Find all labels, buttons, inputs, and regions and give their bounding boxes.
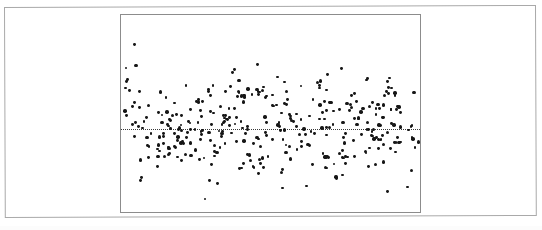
data-point xyxy=(168,152,171,155)
data-point xyxy=(133,101,136,104)
data-point xyxy=(378,107,381,110)
data-point xyxy=(145,136,148,139)
data-point xyxy=(387,92,390,95)
data-point xyxy=(147,104,150,107)
data-point xyxy=(386,190,389,193)
data-point xyxy=(198,158,201,161)
data-point xyxy=(319,79,322,82)
data-point xyxy=(325,167,328,170)
data-point xyxy=(244,132,247,135)
data-point xyxy=(288,145,291,148)
data-point xyxy=(284,151,287,154)
data-point xyxy=(157,111,160,114)
data-point xyxy=(173,102,176,105)
data-point xyxy=(165,96,168,99)
data-point xyxy=(357,116,360,119)
data-point xyxy=(352,139,355,142)
data-point xyxy=(139,179,142,182)
data-point xyxy=(145,116,148,119)
data-point xyxy=(305,185,308,188)
data-point xyxy=(138,90,141,93)
data-point xyxy=(209,139,212,142)
data-point xyxy=(200,133,203,136)
data-point xyxy=(158,150,161,153)
data-point xyxy=(338,152,341,155)
data-point xyxy=(184,153,187,156)
data-point xyxy=(311,163,314,166)
data-point xyxy=(383,94,386,97)
data-point xyxy=(237,79,240,82)
data-point xyxy=(165,110,168,113)
data-point xyxy=(278,121,281,124)
data-point xyxy=(353,155,356,158)
data-point xyxy=(283,81,286,84)
data-point xyxy=(321,111,324,114)
data-point xyxy=(236,95,239,98)
data-point xyxy=(134,121,137,124)
data-point xyxy=(265,134,268,137)
data-point xyxy=(194,148,197,151)
data-point xyxy=(263,115,266,118)
data-point xyxy=(300,145,303,148)
data-point xyxy=(396,136,399,139)
data-point xyxy=(125,80,128,83)
data-point xyxy=(394,151,397,154)
data-point xyxy=(417,140,420,143)
data-point xyxy=(325,134,328,137)
data-point xyxy=(261,156,264,159)
data-point xyxy=(141,127,144,130)
data-point xyxy=(228,124,231,127)
data-point xyxy=(364,150,367,153)
data-point xyxy=(281,187,284,190)
data-point xyxy=(388,77,391,80)
data-point xyxy=(133,135,136,138)
data-point xyxy=(235,116,238,119)
data-point xyxy=(242,162,245,165)
data-point xyxy=(377,123,380,126)
data-point xyxy=(238,167,241,170)
data-point xyxy=(186,131,189,134)
data-point xyxy=(332,110,335,113)
data-point xyxy=(323,118,326,121)
data-point xyxy=(390,87,393,90)
data-point xyxy=(325,89,328,92)
data-point xyxy=(265,121,268,124)
data-point xyxy=(150,132,153,135)
data-point xyxy=(169,127,172,130)
data-point xyxy=(370,134,373,137)
data-point xyxy=(302,127,305,130)
data-point xyxy=(123,109,126,112)
data-point xyxy=(185,136,188,139)
data-point xyxy=(411,124,414,127)
data-point xyxy=(262,166,265,169)
data-point xyxy=(386,80,389,83)
data-point xyxy=(382,143,385,146)
data-point xyxy=(157,143,160,146)
data-point xyxy=(278,125,281,128)
data-point xyxy=(360,133,363,136)
data-point xyxy=(341,174,344,177)
data-point xyxy=(189,128,192,131)
data-point xyxy=(271,138,274,141)
data-point xyxy=(162,135,165,138)
plot-panel xyxy=(120,14,421,213)
scan-edge-artifact xyxy=(0,226,542,230)
data-point xyxy=(220,135,223,138)
data-point xyxy=(350,106,353,109)
data-point xyxy=(210,123,213,126)
data-point xyxy=(341,149,344,152)
data-point xyxy=(399,125,402,128)
data-point xyxy=(131,105,134,108)
data-point xyxy=(158,135,161,138)
data-point xyxy=(340,67,343,70)
data-point xyxy=(366,121,369,124)
data-point xyxy=(143,120,146,123)
data-point xyxy=(257,93,260,96)
data-point xyxy=(367,165,370,168)
data-point xyxy=(189,141,192,144)
data-point xyxy=(173,145,176,148)
data-point xyxy=(235,140,238,143)
data-point xyxy=(249,159,252,162)
data-point xyxy=(216,182,219,185)
data-point xyxy=(219,146,222,149)
